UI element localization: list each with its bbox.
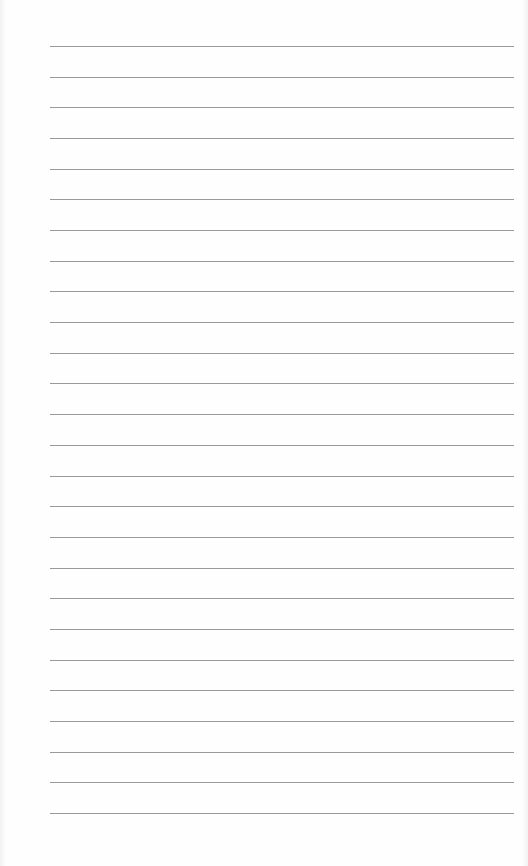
ruled-line bbox=[50, 506, 514, 507]
ruled-line bbox=[50, 383, 514, 384]
ruled-line bbox=[50, 660, 514, 661]
ruled-line bbox=[50, 169, 514, 170]
ruled-line bbox=[50, 353, 514, 354]
ruled-line bbox=[50, 322, 514, 323]
ruled-line bbox=[50, 752, 514, 753]
ruled-line bbox=[50, 721, 514, 722]
ruled-line bbox=[50, 476, 514, 477]
ruled-line bbox=[50, 261, 514, 262]
lined-paper-page bbox=[0, 0, 528, 866]
ruled-line bbox=[50, 199, 514, 200]
ruled-line bbox=[50, 107, 514, 108]
ruled-line bbox=[50, 690, 514, 691]
ruled-line bbox=[50, 598, 514, 599]
ruled-line bbox=[50, 813, 514, 814]
ruled-line bbox=[50, 230, 514, 231]
ruled-line bbox=[50, 77, 514, 78]
ruled-line bbox=[50, 445, 514, 446]
page-edge-right bbox=[522, 0, 528, 866]
ruled-line bbox=[50, 291, 514, 292]
ruled-line bbox=[50, 414, 514, 415]
ruled-line bbox=[50, 568, 514, 569]
page-edge-left bbox=[0, 0, 6, 866]
ruled-line bbox=[50, 46, 514, 47]
ruled-line bbox=[50, 138, 514, 139]
ruled-line bbox=[50, 537, 514, 538]
ruled-line bbox=[50, 629, 514, 630]
ruled-line bbox=[50, 782, 514, 783]
